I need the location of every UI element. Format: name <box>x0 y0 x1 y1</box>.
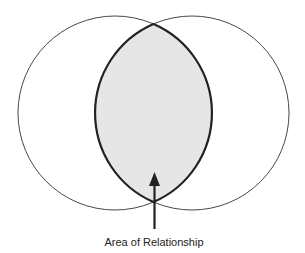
venn-diagram <box>0 0 305 253</box>
area-of-relationship-label: Area of Relationship <box>0 236 305 248</box>
